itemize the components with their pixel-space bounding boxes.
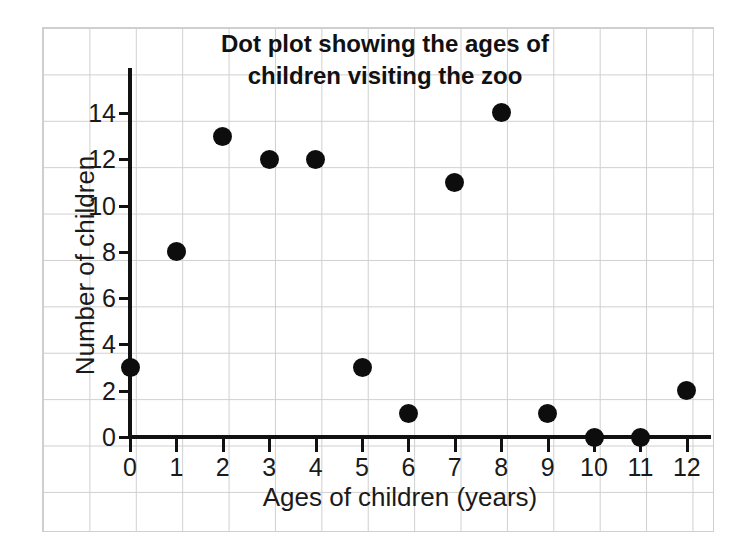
x-tick-mark — [222, 439, 225, 452]
y-axis-title: Number of children — [70, 121, 101, 411]
x-tick-mark — [129, 439, 132, 452]
x-tick-label: 0 — [110, 452, 150, 482]
y-tick-mark — [119, 205, 132, 208]
y-tick-mark — [119, 297, 132, 300]
x-axis-title: Ages of children (years) — [180, 482, 620, 513]
y-tick-mark — [119, 343, 132, 346]
y-tick-mark — [119, 112, 132, 115]
chart-title-line-2: children visiting the zoo — [185, 60, 585, 92]
x-tick-label: 5 — [342, 452, 382, 482]
dot-plot: Dot plot showing the ages of children vi… — [0, 0, 738, 553]
data-point — [538, 404, 557, 423]
x-tick-mark — [454, 439, 457, 452]
x-tick-label: 1 — [156, 452, 196, 482]
x-tick-mark — [500, 439, 503, 452]
data-point — [585, 428, 604, 447]
x-tick-mark — [175, 439, 178, 452]
x-tick-label: 8 — [481, 452, 521, 482]
x-tick-label: 4 — [296, 452, 336, 482]
data-point — [677, 381, 696, 400]
y-tick-mark — [119, 436, 132, 439]
x-tick-label: 9 — [528, 452, 568, 482]
data-point — [353, 358, 372, 377]
x-tick-label: 10 — [574, 452, 614, 482]
x-tick-label: 12 — [667, 452, 707, 482]
x-tick-label: 3 — [249, 452, 289, 482]
data-point — [631, 428, 650, 447]
data-point — [492, 103, 511, 122]
x-tick-mark — [315, 439, 318, 452]
chart-title-line-1: Dot plot showing the ages of — [185, 28, 585, 60]
chart-page: Dot plot showing the ages of children vi… — [0, 0, 738, 553]
x-tick-mark — [361, 439, 364, 452]
x-tick-label: 11 — [620, 452, 660, 482]
data-point — [399, 404, 418, 423]
y-tick-mark — [119, 251, 132, 254]
y-tick-mark — [119, 390, 132, 393]
x-tick-mark — [268, 439, 271, 452]
x-tick-label: 6 — [388, 452, 428, 482]
data-point — [213, 127, 232, 146]
data-point — [121, 358, 140, 377]
x-tick-mark — [407, 439, 410, 452]
x-tick-label: 2 — [203, 452, 243, 482]
data-point — [260, 150, 279, 169]
x-axis-line — [128, 435, 711, 439]
x-tick-mark — [686, 439, 689, 452]
x-tick-mark — [547, 439, 550, 452]
data-point — [167, 242, 186, 261]
y-tick-label: 0 — [72, 422, 116, 452]
chart-title: Dot plot showing the ages of children vi… — [185, 28, 585, 92]
y-tick-mark — [119, 158, 132, 161]
data-point — [445, 173, 464, 192]
x-tick-label: 7 — [435, 452, 475, 482]
data-point — [306, 150, 325, 169]
